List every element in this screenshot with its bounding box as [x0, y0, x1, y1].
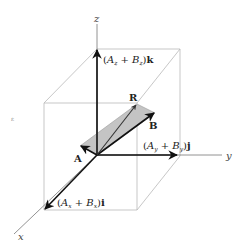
x-component-label: (Ax + Bx)i: [57, 197, 105, 209]
vector-diagram: z y x R B A (Az + Bz)k (Ay + By)j (Ax + …: [0, 0, 245, 244]
vector-r-label: R: [129, 92, 138, 103]
z-component-label: (Az + Bz)k: [103, 54, 155, 66]
vector-b-label: B: [149, 120, 157, 131]
vector-a-label: A: [73, 153, 82, 164]
stray-mark: ε: [11, 115, 14, 122]
y-axis-label: y: [225, 150, 232, 161]
z-axis-label: z: [93, 13, 100, 24]
x-axis-label: x: [18, 231, 24, 242]
y-component-label: (Ay + By)j: [143, 140, 191, 153]
box-edge-bottom-right: [137, 156, 180, 210]
box-edge-top-left: [44, 49, 97, 103]
